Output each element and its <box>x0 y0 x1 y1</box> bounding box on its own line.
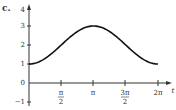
x-axis-arrow-icon <box>166 81 172 85</box>
chart: c. 4 3 2 1 0 −1 π 2 π 3π 2 2π t <box>0 0 176 110</box>
y-tick-0: 0 <box>21 79 25 87</box>
x-tick-3pi-2-den: 2 <box>123 98 127 106</box>
x-axis-label: t <box>172 87 175 95</box>
x-tick-pi-2-num: π <box>59 89 64 97</box>
x-tick-pi: π <box>91 89 96 97</box>
y-tick-4: 4 <box>21 6 26 14</box>
panel-label: c. <box>2 3 11 13</box>
y-tick-1: 1 <box>21 60 25 68</box>
x-tick-2pi: 2π <box>153 89 162 97</box>
y-tick-3: 3 <box>21 22 25 30</box>
y-axis-arrow-icon <box>27 4 31 10</box>
y-tick-minus1: −1 <box>15 98 25 106</box>
curve-line <box>29 26 158 64</box>
y-tick-2: 2 <box>21 41 25 49</box>
x-tick-pi-2-den: 2 <box>59 98 63 106</box>
x-tick-3pi-2-num: 3π <box>120 89 129 97</box>
